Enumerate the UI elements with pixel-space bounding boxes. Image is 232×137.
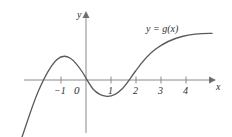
x-tick-label-3: 3 [158,86,163,96]
x-tick-label-2: 2 [133,86,138,96]
x-tick-label-1: 1 [108,86,113,96]
y-axis-arrowhead [83,11,90,18]
graph-figure: −1 0 1 2 3 4 x y y = g(x) [0,0,232,137]
x-axis-arrowhead [209,77,216,84]
curve-label: y = g(x) [146,24,178,34]
x-tick-label-4: 4 [183,86,188,96]
x-tick-label-0: 0 [74,85,80,96]
y-axis-label: y [77,10,81,20]
x-tick-label-minus-1: −1 [54,86,66,96]
graph-canvas [0,0,232,137]
x-axis-label: x [216,82,220,92]
